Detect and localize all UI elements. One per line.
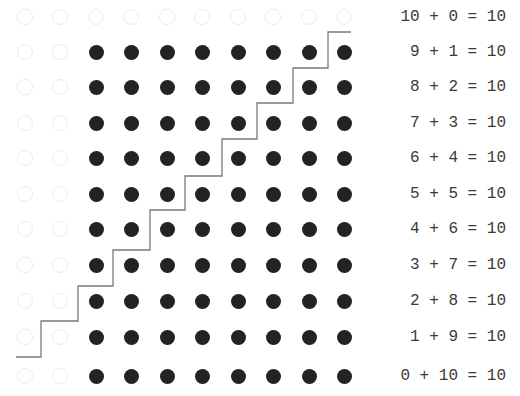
filled-dot: [89, 222, 104, 237]
filled-dot: [266, 258, 281, 273]
filled-dot: [160, 80, 175, 95]
filled-dot: [160, 116, 175, 131]
hollow-dot: [17, 150, 33, 166]
filled-dot: [89, 116, 104, 131]
hollow-dot: [52, 150, 68, 166]
hollow-dot: [52, 9, 68, 25]
filled-dot: [337, 294, 352, 309]
hollow-dot: [52, 221, 68, 237]
hollow-dot: [52, 115, 68, 131]
hollow-dot: [17, 44, 33, 60]
filled-dot: [337, 116, 352, 131]
filled-dot: [89, 258, 104, 273]
hollow-dot: [17, 329, 33, 345]
hollow-dot: [52, 368, 68, 384]
hollow-dot: [123, 9, 139, 25]
filled-dot: [124, 258, 139, 273]
filled-dot: [195, 80, 210, 95]
hollow-dot: [17, 115, 33, 131]
filled-dot: [302, 330, 317, 345]
filled-dot: [160, 45, 175, 60]
filled-dot: [89, 80, 104, 95]
filled-dot: [89, 45, 104, 60]
filled-dot: [231, 151, 246, 166]
filled-dot: [160, 330, 175, 345]
filled-dot: [231, 187, 246, 202]
filled-dot: [124, 80, 139, 95]
hollow-dot: [52, 257, 68, 273]
filled-dot: [89, 151, 104, 166]
filled-dot: [266, 116, 281, 131]
filled-dot: [302, 151, 317, 166]
filled-dot: [302, 258, 317, 273]
hollow-dot: [230, 9, 246, 25]
filled-dot: [302, 369, 317, 384]
filled-dot: [124, 45, 139, 60]
equation-4: 6 + 4 = 10: [410, 149, 506, 167]
filled-dot: [337, 45, 352, 60]
filled-dot: [266, 151, 281, 166]
equation-10: 0 + 10 = 10: [400, 367, 506, 385]
hollow-dot: [17, 368, 33, 384]
hollow-dot: [52, 44, 68, 60]
hollow-dot: [17, 221, 33, 237]
hollow-dot: [159, 9, 175, 25]
hollow-dot: [17, 257, 33, 273]
filled-dot: [124, 330, 139, 345]
hollow-dot: [52, 186, 68, 202]
filled-dot: [337, 369, 352, 384]
filled-dot: [195, 116, 210, 131]
filled-dot: [231, 222, 246, 237]
hollow-dot: [17, 293, 33, 309]
filled-dot: [302, 116, 317, 131]
filled-dot: [124, 369, 139, 384]
filled-dot: [302, 45, 317, 60]
filled-dot: [337, 258, 352, 273]
filled-dot: [160, 187, 175, 202]
filled-dot: [231, 45, 246, 60]
filled-dot: [124, 151, 139, 166]
equation-9: 1 + 9 = 10: [410, 328, 506, 346]
filled-dot: [337, 80, 352, 95]
filled-dot: [124, 187, 139, 202]
filled-dot: [231, 80, 246, 95]
hollow-dot: [265, 9, 281, 25]
filled-dot: [195, 369, 210, 384]
filled-dot: [266, 369, 281, 384]
filled-dot: [160, 151, 175, 166]
filled-dot: [302, 222, 317, 237]
filled-dot: [124, 294, 139, 309]
filled-dot: [337, 151, 352, 166]
filled-dot: [195, 45, 210, 60]
hollow-dot: [52, 329, 68, 345]
hollow-dot: [17, 9, 33, 25]
filled-dot: [337, 330, 352, 345]
equation-1: 9 + 1 = 10: [410, 43, 506, 61]
hollow-dot: [17, 186, 33, 202]
filled-dot: [124, 222, 139, 237]
equation-7: 3 + 7 = 10: [410, 256, 506, 274]
filled-dot: [231, 116, 246, 131]
equation-8: 2 + 8 = 10: [410, 292, 506, 310]
equation-3: 7 + 3 = 10: [410, 114, 506, 132]
filled-dot: [89, 369, 104, 384]
filled-dot: [231, 294, 246, 309]
equation-2: 8 + 2 = 10: [410, 78, 506, 96]
filled-dot: [231, 369, 246, 384]
filled-dot: [266, 222, 281, 237]
filled-dot: [266, 294, 281, 309]
filled-dot: [195, 222, 210, 237]
filled-dot: [160, 294, 175, 309]
filled-dot: [195, 187, 210, 202]
filled-dot: [160, 258, 175, 273]
filled-dot: [160, 369, 175, 384]
filled-dot: [124, 116, 139, 131]
hollow-dot: [301, 9, 317, 25]
filled-dot: [266, 45, 281, 60]
equation-0: 10 + 0 = 10: [400, 8, 506, 26]
filled-dot: [231, 330, 246, 345]
filled-dot: [231, 258, 246, 273]
filled-dot: [195, 330, 210, 345]
filled-dot: [89, 294, 104, 309]
filled-dot: [195, 258, 210, 273]
